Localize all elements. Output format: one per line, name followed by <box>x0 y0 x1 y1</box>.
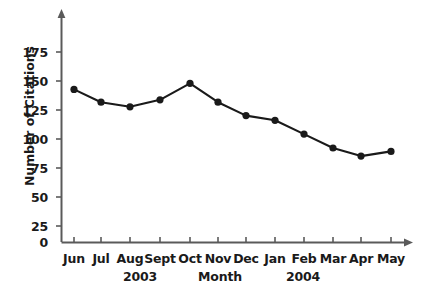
data-point-mar <box>329 144 336 151</box>
data-point-apr <box>357 153 364 160</box>
y-axis <box>58 9 66 242</box>
data-point-nov <box>214 99 221 106</box>
data-point-may <box>387 148 394 155</box>
data-point-jan <box>271 117 278 124</box>
chart-canvas <box>0 0 432 296</box>
data-point-dec <box>242 112 249 119</box>
data-line <box>74 83 391 156</box>
data-point-sept <box>156 96 163 103</box>
data-point-feb <box>300 131 307 138</box>
data-point-jun <box>70 86 77 93</box>
data-point-aug <box>126 103 133 110</box>
line-chart: 175 150 125 100 75 50 25 0 Number of Cit… <box>0 0 432 296</box>
data-points <box>70 80 394 160</box>
data-point-jul <box>97 99 104 106</box>
data-point-oct <box>186 80 193 87</box>
